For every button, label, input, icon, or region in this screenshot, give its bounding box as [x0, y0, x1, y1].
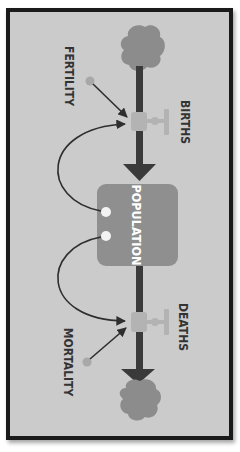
fertility-label: FERTILITY	[62, 46, 76, 106]
population-label: POPULATION	[129, 185, 144, 266]
mortality-link	[90, 328, 126, 359]
inflow-arrowhead-icon	[123, 164, 156, 181]
deaths-valve-icon[interactable]	[131, 309, 169, 335]
births-label: BIRTHS	[178, 100, 192, 144]
mortality-label: MORTALITY	[61, 328, 75, 397]
stock-connector-top	[101, 207, 111, 217]
stock-connector-bottom	[101, 231, 111, 241]
fertility-link	[93, 84, 127, 117]
stock-flow-diagram: FERTILITY BIRTHS POPULATION DEATHS MORTA…	[0, 0, 240, 452]
source-cloud-icon	[121, 25, 165, 71]
deaths-label: DEATHS	[176, 303, 190, 351]
sink-cloud-icon	[120, 379, 161, 420]
